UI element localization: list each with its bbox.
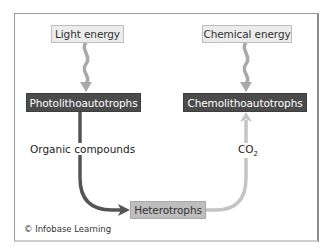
light-energy-label: Light energy: [55, 28, 120, 40]
co2-arrow: [206, 112, 252, 210]
chemolithoautotrophs-node: Chemolithoautotrophs: [183, 93, 307, 112]
light-energy-node: Light energy: [51, 25, 124, 43]
chemical-energy-label: Chemical energy: [203, 28, 290, 40]
chemolithoautotrophs-label: Chemolithoautotrophs: [187, 97, 302, 109]
wavy-arrow-light: [80, 42, 92, 92]
photolithoautotrophs-node: Photolithoautotrophs: [26, 93, 141, 112]
wavy-arrow-chemical: [240, 42, 252, 92]
heterotrophs-node: Heterotrophs: [130, 201, 206, 219]
organic-compounds-label: Organic compounds: [30, 143, 135, 155]
copyright-credit: © Infobase Learning: [24, 224, 111, 234]
photolithoautotrophs-label: Photolithoautotrophs: [29, 97, 137, 109]
co2-subscript: 2: [254, 150, 258, 158]
co2-label: CO2: [237, 143, 259, 158]
co2-text: CO: [238, 143, 254, 155]
organic-compounds-text: Organic compounds: [30, 143, 135, 155]
heterotrophs-label: Heterotrophs: [134, 204, 202, 216]
chemical-energy-node: Chemical energy: [202, 25, 292, 43]
organic-compounds-arrow: [80, 112, 130, 216]
credit-text: © Infobase Learning: [24, 224, 111, 234]
